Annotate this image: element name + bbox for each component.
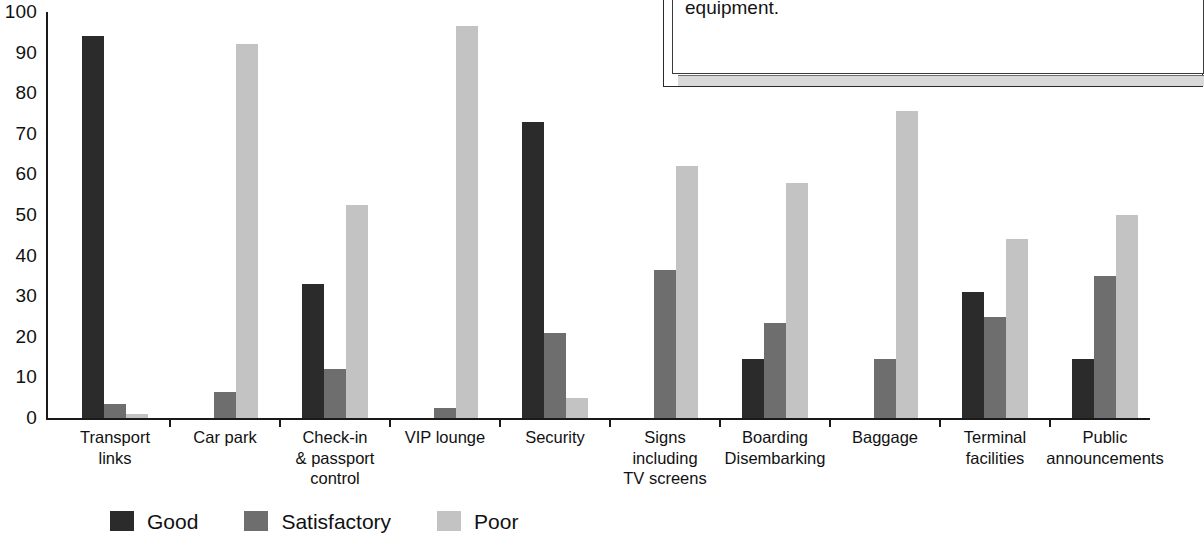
x-axis-tick — [499, 418, 501, 427]
note-box-inner-gutter — [664, 0, 672, 84]
y-axis-tick-label: 10 — [0, 367, 46, 386]
category-label: Terminalfacilities — [934, 427, 1056, 468]
bar-good — [962, 292, 984, 418]
bar-sat — [214, 392, 236, 418]
x-axis-tick — [279, 418, 281, 427]
y-axis-tick-label: 20 — [0, 327, 46, 346]
category-label: Security — [494, 427, 616, 448]
x-axis-tick — [719, 418, 721, 427]
bar-good — [302, 284, 324, 418]
legend-item: Poor — [437, 511, 518, 532]
bar-poor — [676, 166, 698, 418]
category-label: VIP lounge — [384, 427, 506, 448]
y-axis-tick-label: 60 — [0, 164, 46, 183]
y-axis-tick-label: 40 — [0, 246, 46, 265]
bar-group — [192, 12, 258, 418]
bar-poor — [896, 111, 918, 418]
category-label: Baggage — [824, 427, 946, 448]
y-axis-tick-label: 90 — [0, 43, 46, 62]
category-label: Transportlinks — [54, 427, 176, 468]
bar-group — [302, 12, 368, 418]
y-axis-tick-label: 80 — [0, 83, 46, 102]
legend-label: Good — [147, 511, 198, 532]
note-callout-box: improving communications than investing … — [663, 0, 1203, 87]
bar-sat — [874, 359, 896, 418]
bar-good — [742, 359, 764, 418]
dark-swatch — [110, 511, 134, 531]
bar-group — [82, 12, 148, 418]
bar-sat — [104, 404, 126, 418]
bar-poor — [1116, 215, 1138, 418]
note-text: improving communications than investing … — [685, 0, 1193, 21]
legend-label: Poor — [474, 511, 518, 532]
y-axis-tick-label: 0 — [0, 408, 46, 427]
category-label: SignsincludingTV screens — [604, 427, 726, 489]
category-label: Check-in& passportcontrol — [274, 427, 396, 489]
note-box-inner: improving communications than investing … — [672, 0, 1204, 74]
bar-poor — [126, 414, 148, 418]
x-axis-tick — [389, 418, 391, 427]
x-axis-tick — [169, 418, 171, 427]
chart-legend: GoodSatisfactoryPoor — [110, 506, 518, 536]
bar-sat — [654, 270, 676, 418]
category-label: Publicannouncements — [1044, 427, 1166, 468]
light-gray-swatch — [437, 511, 461, 531]
x-axis-tick — [609, 418, 611, 427]
bar-good — [1072, 359, 1094, 418]
bar-poor — [236, 44, 258, 418]
bar-sat — [544, 333, 566, 418]
x-axis-tick — [829, 418, 831, 427]
bar-poor — [456, 26, 478, 418]
bar-good — [82, 36, 104, 418]
bar-good — [522, 122, 544, 418]
bar-poor — [346, 205, 368, 418]
category-label: BoardingDisembarking — [714, 427, 836, 468]
note-box-shadow — [678, 75, 1204, 86]
bar-poor — [566, 398, 588, 418]
y-axis-tick-label: 50 — [0, 205, 46, 224]
bar-sat — [434, 408, 456, 418]
bar-group — [412, 12, 478, 418]
bar-poor — [1006, 239, 1028, 418]
y-axis-tick-label: 30 — [0, 286, 46, 305]
x-axis-tick — [939, 418, 941, 427]
legend-label: Satisfactory — [281, 511, 391, 532]
x-axis-tick — [1049, 418, 1051, 427]
legend-item: Satisfactory — [244, 511, 391, 532]
bar-poor — [786, 183, 808, 418]
y-axis-labels: 0102030405060708090100 — [0, 0, 46, 440]
y-axis-tick-label: 70 — [0, 124, 46, 143]
bar-group — [522, 12, 588, 418]
y-axis-tick-label: 100 — [0, 2, 46, 21]
legend-item: Good — [110, 511, 198, 532]
bar-sat — [764, 323, 786, 418]
x-axis-line — [46, 418, 1150, 420]
bar-sat — [1094, 276, 1116, 418]
medium-gray-swatch — [244, 511, 268, 531]
bar-sat — [984, 317, 1006, 419]
category-label: Car park — [164, 427, 286, 448]
bar-sat — [324, 369, 346, 418]
